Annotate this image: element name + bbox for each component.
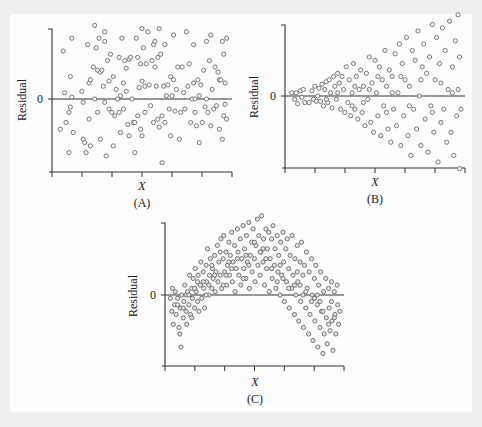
data-point — [209, 124, 213, 128]
data-point — [242, 247, 246, 251]
data-point — [195, 280, 199, 284]
data-point — [276, 270, 280, 274]
data-point — [244, 234, 248, 238]
data-point — [157, 27, 161, 31]
data-point — [204, 293, 208, 297]
data-point — [331, 74, 335, 78]
data-point — [121, 107, 125, 111]
data-point — [332, 290, 336, 294]
data-point — [327, 286, 331, 290]
data-point — [376, 74, 380, 78]
data-point — [84, 151, 88, 155]
data-point — [328, 329, 332, 333]
data-point — [216, 280, 220, 284]
data-point — [316, 345, 320, 349]
data-point — [293, 257, 297, 261]
data-point — [220, 137, 224, 141]
data-point — [157, 125, 161, 129]
data-point — [314, 263, 318, 267]
data-point — [103, 39, 107, 43]
data-point — [379, 134, 383, 138]
data-point — [300, 95, 304, 99]
data-point — [96, 110, 100, 114]
data-point — [248, 253, 252, 257]
data-point — [417, 94, 421, 98]
data-point — [317, 283, 321, 287]
data-point — [420, 65, 424, 69]
data-point — [181, 306, 185, 310]
data-point — [182, 91, 186, 95]
data-point — [452, 153, 456, 157]
data-point — [161, 84, 165, 88]
data-point — [350, 91, 354, 95]
data-point — [187, 273, 191, 277]
data-point — [318, 99, 322, 103]
data-point — [186, 84, 190, 88]
data-point — [271, 224, 275, 228]
data-point — [318, 325, 322, 329]
data-point — [228, 253, 232, 257]
data-point — [384, 110, 388, 114]
data-point — [217, 260, 221, 264]
data-point — [67, 110, 71, 114]
data-point — [238, 237, 242, 241]
ylabel-a: Residual — [15, 78, 29, 121]
data-point — [213, 273, 217, 277]
data-point — [118, 94, 122, 98]
data-point — [399, 143, 403, 147]
data-point — [167, 107, 171, 111]
data-point — [118, 130, 122, 134]
data-point — [427, 55, 431, 59]
data-point — [327, 78, 331, 82]
plot-a: Residual 0 X (A) — [15, 23, 232, 210]
xlabel-b: X — [370, 175, 379, 189]
data-point — [218, 250, 222, 254]
data-point — [87, 117, 91, 121]
data-point — [327, 322, 331, 326]
data-point — [327, 306, 331, 310]
data-point — [374, 91, 378, 95]
data-point — [361, 101, 365, 105]
data-point — [389, 140, 393, 144]
xlabel-c: X — [250, 375, 259, 389]
data-point — [207, 273, 211, 277]
data-point — [227, 260, 231, 264]
data-point — [140, 134, 144, 138]
data-point — [194, 124, 198, 128]
data-point — [179, 345, 183, 349]
data-point — [275, 280, 279, 284]
caption-a: (A) — [134, 196, 151, 210]
data-point — [320, 82, 324, 86]
data-point — [205, 247, 209, 251]
data-point — [117, 110, 121, 114]
data-point — [114, 87, 118, 91]
data-point — [281, 276, 285, 280]
data-point — [225, 36, 229, 40]
data-point — [85, 43, 89, 47]
data-point — [303, 101, 307, 105]
data-point — [333, 84, 337, 88]
data-point — [359, 68, 363, 72]
data-point — [324, 97, 328, 101]
data-point — [230, 267, 234, 271]
data-point — [392, 107, 396, 111]
data-point — [323, 87, 327, 91]
data-point — [143, 110, 147, 114]
data-point — [179, 110, 183, 114]
data-point — [410, 48, 414, 52]
y-axis-a — [48, 29, 52, 172]
data-point — [311, 338, 315, 342]
data-point — [231, 260, 235, 264]
data-point — [133, 151, 137, 155]
data-point — [154, 84, 158, 88]
data-point — [337, 322, 341, 326]
data-point — [236, 250, 240, 254]
data-point — [176, 65, 180, 69]
data-point — [407, 84, 411, 88]
data-point — [335, 283, 339, 287]
data-point — [413, 58, 417, 62]
plot-c: Residual 0 X (C) — [126, 214, 344, 406]
data-point — [336, 303, 340, 307]
data-point — [103, 30, 107, 34]
data-point — [130, 97, 134, 101]
